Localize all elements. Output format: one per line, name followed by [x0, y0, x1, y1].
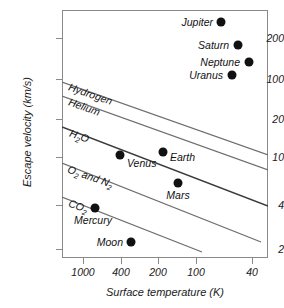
- point-label-neptune: Neptune: [200, 56, 240, 68]
- data-point-moon: [127, 238, 136, 247]
- x-tick-mark: [83, 258, 84, 264]
- point-label-saturn: Saturn: [198, 39, 229, 51]
- x-tick-mark: [121, 258, 122, 264]
- y-tick-mark: [56, 205, 62, 206]
- point-label-earth: Earth: [170, 151, 195, 163]
- y-tick-mark: [56, 119, 62, 120]
- escape-velocity-chart: Escape velocity (km/s) Surface temperatu…: [0, 0, 284, 308]
- x-tick-label-100: 100: [171, 266, 221, 278]
- y-tick-mark: [56, 249, 62, 250]
- x-tick-mark: [158, 258, 159, 264]
- data-point-venus: [116, 151, 125, 160]
- data-point-mercury: [91, 204, 100, 213]
- point-label-mercury: Mercury: [74, 214, 112, 226]
- y-tick-mark: [56, 38, 62, 39]
- point-label-moon: Moon: [97, 236, 123, 248]
- y-tick-label-10: 10: [230, 151, 284, 163]
- h2o-line: [62, 127, 268, 206]
- data-point-earth: [159, 148, 168, 157]
- data-point-saturn: [234, 41, 243, 50]
- y-tick-label-100: 100: [230, 73, 284, 85]
- x-tick-mark: [252, 258, 253, 264]
- x-tick-mark: [196, 258, 197, 264]
- data-point-uranus: [228, 71, 237, 80]
- x-tick-label-40: 40: [227, 266, 277, 278]
- y-tick-mark: [56, 157, 62, 158]
- y-tick-mark: [56, 79, 62, 80]
- data-point-mars: [174, 179, 183, 188]
- data-point-jupiter: [217, 18, 226, 27]
- y-tick-label-2: 2: [230, 243, 284, 255]
- point-label-uranus: Uranus: [189, 69, 223, 81]
- y-tick-label-4: 4: [230, 199, 284, 211]
- point-label-venus: Venus: [127, 157, 156, 169]
- x-axis-title: Surface temperature (K): [62, 286, 268, 298]
- data-point-neptune: [245, 58, 254, 67]
- y-axis-title: Escape velocity (km/s): [21, 42, 33, 222]
- point-label-mars: Mars: [166, 189, 189, 201]
- point-label-jupiter: Jupiter: [181, 16, 213, 28]
- y-tick-label-20: 20: [230, 113, 284, 125]
